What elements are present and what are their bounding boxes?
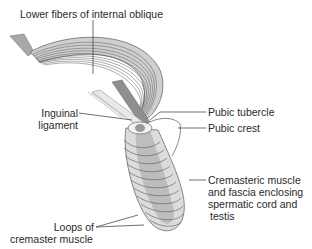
- label-inguinal-line1: Inguinal: [36, 107, 78, 119]
- label-cremasteric-line1: Cremasteric muscle: [208, 174, 301, 186]
- label-cremasteric-line2: and fascia enclosing: [208, 186, 303, 198]
- anatomy-diagram: Lower fibers of internal oblique Inguina…: [0, 0, 312, 249]
- label-lower-fibers: Lower fibers of internal oblique: [20, 8, 163, 20]
- label-pubic-tubercle: Pubic tubercle: [208, 106, 275, 118]
- label-loops-line1: Loops of: [40, 221, 94, 233]
- label-cremasteric-line3: spermatic cord and: [208, 198, 297, 210]
- internal-oblique-muscle: [30, 37, 163, 118]
- label-pubic-crest: Pubic crest: [208, 122, 260, 134]
- label-inguinal-line2: ligament: [26, 119, 78, 131]
- label-loops-line2: cremaster muscle: [10, 233, 93, 245]
- cremasteric-sac: [124, 122, 184, 231]
- label-cremasteric-line4: testis: [210, 210, 235, 222]
